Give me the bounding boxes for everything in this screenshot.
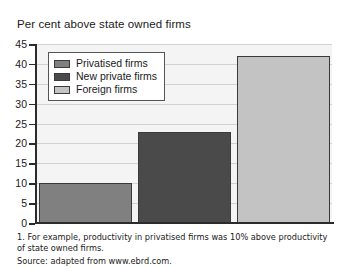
y-tick-mark: [29, 64, 35, 66]
y-tick-mark: [29, 143, 35, 145]
bar-new-private-firms: [138, 132, 231, 223]
legend-item: Foreign firms: [54, 83, 157, 96]
y-tick-label: 10: [15, 178, 27, 189]
y-tick-label: 0: [21, 218, 27, 229]
y-tick-mark: [29, 44, 35, 46]
y-axis-tick-labels: 454035302520151050: [0, 0, 27, 268]
bar-foreign-firms: [237, 56, 330, 223]
y-tick-mark: [29, 223, 35, 225]
y-tick-mark: [29, 104, 35, 106]
gridline: [35, 44, 332, 45]
legend-item-label: New private firms: [76, 71, 157, 82]
footnote: 1. For example, productivity in privatis…: [17, 232, 329, 267]
y-axis-line: [35, 44, 37, 224]
y-tick-label: 5: [21, 198, 27, 209]
legend-item: New private firms: [54, 70, 157, 83]
legend-item-label: Privatised firms: [76, 58, 148, 69]
x-axis-line: [35, 222, 334, 224]
y-tick-label: 15: [15, 158, 27, 169]
y-tick-label: 30: [15, 99, 27, 110]
bar-privatised-firms: [39, 183, 132, 223]
footnote-source: Source: adapted from www.ebrd.com.: [17, 256, 329, 267]
chart-figure: Per cent above state owned firms 4540353…: [0, 0, 343, 268]
legend-item: Privatised firms: [54, 57, 157, 70]
y-tick-label: 20: [15, 138, 27, 149]
legend-swatch-icon: [54, 86, 70, 94]
y-tick-label: 35: [15, 79, 27, 90]
y-tick-mark: [29, 84, 35, 86]
y-tick-mark: [29, 183, 35, 185]
footnote-note: 1. For example, productivity in privatis…: [17, 232, 329, 255]
y-tick-mark: [29, 163, 35, 165]
y-tick-mark: [29, 124, 35, 126]
chart-legend: Privatised firmsNew private firmsForeign…: [48, 52, 165, 101]
y-tick-label: 40: [15, 59, 27, 70]
legend-item-label: Foreign firms: [76, 84, 137, 95]
legend-swatch-icon: [54, 73, 70, 81]
y-tick-mark: [29, 203, 35, 205]
chart-title: Per cent above state owned firms: [17, 18, 191, 30]
y-tick-label: 45: [15, 39, 27, 50]
legend-swatch-icon: [54, 60, 70, 68]
y-tick-label: 25: [15, 119, 27, 130]
